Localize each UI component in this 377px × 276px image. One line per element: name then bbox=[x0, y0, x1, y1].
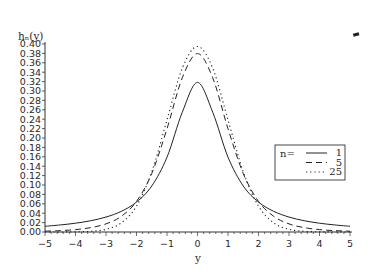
y-tick-label: 0.12 bbox=[20, 170, 41, 181]
legend-label: 25 bbox=[329, 166, 342, 177]
x-axis: −5−4−3−2−1012345 bbox=[38, 232, 353, 249]
x-tick-label: 4 bbox=[316, 238, 322, 249]
y-tick-label: 0.32 bbox=[20, 76, 41, 87]
y-axis: 0.000.020.040.060.080.100.120.140.160.18… bbox=[20, 38, 45, 237]
plot-curves bbox=[45, 46, 350, 232]
legend: n= 1525 bbox=[275, 145, 345, 180]
y-tick-label: 0.08 bbox=[20, 189, 41, 200]
y-tick-label: 0.36 bbox=[20, 57, 41, 68]
curve-n-5 bbox=[45, 54, 350, 232]
y-tick-label: 0.06 bbox=[20, 198, 41, 209]
y-tick-label: 0.38 bbox=[20, 48, 41, 59]
legend-title: n= bbox=[280, 148, 295, 159]
x-tick-label: −3 bbox=[99, 238, 113, 249]
y-tick-label: 0.16 bbox=[20, 151, 41, 162]
x-tick-label: 1 bbox=[225, 238, 231, 249]
t-density-chart: hₙ(y) 0.000.020.040.060.080.100.120.140.… bbox=[0, 0, 377, 276]
y-tick-label: 0.04 bbox=[20, 208, 41, 219]
y-tick-label: 0.10 bbox=[20, 179, 41, 190]
y-tick-label: 0.14 bbox=[20, 161, 41, 172]
y-tick-label: 0.30 bbox=[20, 85, 41, 96]
x-tick-label: 3 bbox=[286, 238, 292, 249]
x-tick-label: 5 bbox=[347, 238, 353, 249]
curve-n-25 bbox=[45, 46, 350, 232]
y-tick-label: 0.40 bbox=[20, 38, 41, 49]
x-tick-label: 2 bbox=[255, 238, 261, 249]
x-tick-label: −1 bbox=[160, 238, 174, 249]
y-tick-label: 0.20 bbox=[20, 132, 41, 143]
x-tick-label: −4 bbox=[68, 238, 82, 249]
y-tick-label: 0.24 bbox=[20, 114, 41, 125]
x-tick-label: −5 bbox=[38, 238, 52, 249]
scan-mark bbox=[353, 32, 360, 36]
x-tick-label: 0 bbox=[194, 238, 200, 249]
y-tick-label: 0.34 bbox=[20, 67, 41, 78]
y-tick-label: 0.02 bbox=[20, 217, 41, 228]
x-axis-title: y bbox=[194, 252, 201, 264]
x-tick-label: −2 bbox=[129, 238, 143, 249]
y-tick-label: 0.00 bbox=[20, 226, 41, 237]
y-tick-label: 0.26 bbox=[20, 104, 41, 115]
y-tick-label: 0.22 bbox=[20, 123, 41, 134]
y-tick-label: 0.28 bbox=[20, 95, 41, 106]
y-tick-label: 0.18 bbox=[20, 142, 41, 153]
